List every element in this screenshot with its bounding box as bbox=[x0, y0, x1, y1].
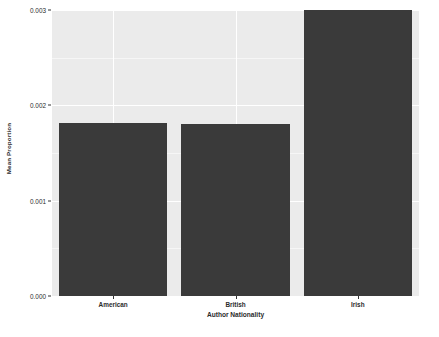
x-tick-label-british: British bbox=[225, 301, 245, 308]
y-tick-mark bbox=[48, 105, 51, 106]
y-tick-label: 0.001 bbox=[2, 197, 46, 204]
x-axis-title: Author Nationality bbox=[52, 311, 419, 318]
plot-panel bbox=[52, 10, 419, 296]
y-axis-tick-labels: 0.0000.0010.0020.003 bbox=[0, 0, 46, 337]
bar-chart-figure: Mean Proportion 0.0000.0010.0020.003 Ame… bbox=[0, 0, 439, 337]
x-tick-label-irish: Irish bbox=[351, 301, 365, 308]
x-tick-mark bbox=[236, 296, 237, 299]
bar-irish bbox=[304, 10, 412, 296]
x-tick-mark bbox=[358, 296, 359, 299]
y-tick-label: 0.002 bbox=[2, 102, 46, 109]
y-tick-mark bbox=[48, 296, 51, 297]
y-tick-mark bbox=[48, 10, 51, 11]
x-tick-mark bbox=[113, 296, 114, 299]
bar-american bbox=[59, 123, 167, 296]
x-tick-label-american: American bbox=[99, 301, 128, 308]
y-tick-mark bbox=[48, 200, 51, 201]
y-tick-label: 0.003 bbox=[2, 7, 46, 14]
y-tick-label: 0.000 bbox=[2, 293, 46, 300]
x-axis-tick-marks bbox=[52, 296, 419, 300]
bar-british bbox=[181, 124, 289, 296]
